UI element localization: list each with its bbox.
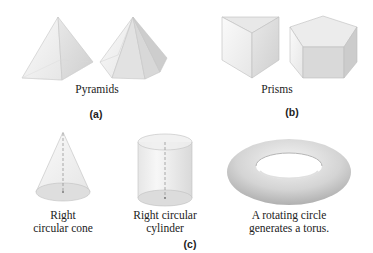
- square-pyramid: [22, 17, 93, 80]
- torus: [227, 139, 351, 205]
- torus-caption-line1: A rotating circle: [249, 209, 329, 222]
- panel-a-label: (a): [90, 108, 103, 120]
- triangular-prism: [222, 17, 279, 78]
- pyramids-caption: Pyramids: [75, 83, 118, 96]
- pentagonal-prism: [290, 16, 357, 78]
- cylinder-caption: Right circular cylinder: [133, 209, 197, 235]
- hexagonal-pyramid: [100, 17, 167, 79]
- torus-caption: A rotating circle generates a torus.: [249, 209, 329, 235]
- cone-caption-line1: Right: [33, 209, 93, 222]
- cylinder-caption-line2: cylinder: [133, 222, 197, 235]
- figure-canvas: Pyramids (a) Prisms (b) Right circular c…: [0, 0, 373, 253]
- prisms-caption: Prisms: [261, 83, 292, 96]
- panel-c-label: (c): [184, 238, 197, 250]
- cone-caption-line2: circular cone: [33, 222, 93, 235]
- cone-caption: Right circular cone: [33, 209, 93, 235]
- torus-caption-line2: generates a torus.: [249, 222, 329, 235]
- cylinder: [138, 134, 192, 206]
- panel-b-label: (b): [285, 106, 298, 118]
- cylinder-caption-line1: Right circular: [133, 209, 197, 222]
- cone: [36, 132, 90, 201]
